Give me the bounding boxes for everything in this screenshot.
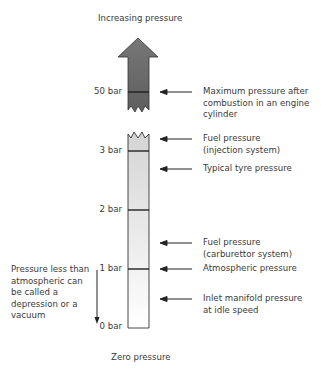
zero-pressure-label: Zero pressure [111,352,171,364]
tick-label-0-bar: 0 bar [82,321,122,331]
tick-label-3-bar: 3 bar [82,145,122,155]
pressure-column [128,132,149,328]
pointer-arrow-tyre [160,167,192,172]
annotation-inlet-manifold: Inlet manifold pressure at idle speed [203,293,302,316]
vacuum-note: Pressure less than atmospheric can be ca… [11,264,89,322]
annotation-fuel-carburettor: Fuel pressure (carburettor system) [203,237,292,260]
pointer-arrow-carburettor [160,241,192,246]
pointer-arrow-injection [160,137,192,142]
vacuum-down-arrow [95,270,100,324]
increasing-pressure-label: Increasing pressure [98,13,182,25]
tick-label-2-bar: 2 bar [82,204,122,214]
tick-label-50-bar: 50 bar [82,86,122,96]
annotation-atmospheric: Atmospheric pressure [203,263,297,275]
increasing-pressure-arrow [118,38,158,112]
pointer-arrow-max-combustion [160,90,192,95]
annotation-arrows [160,90,192,302]
pointer-arrow-atmospheric [160,267,192,272]
annotation-tyre: Typical tyre pressure [203,163,292,175]
annotation-max-combustion: Maximum pressure after combustion in an … [203,86,309,121]
annotation-fuel-injection: Fuel pressure (injection system) [203,133,280,156]
pointer-arrow-inlet-manifold [160,297,192,302]
